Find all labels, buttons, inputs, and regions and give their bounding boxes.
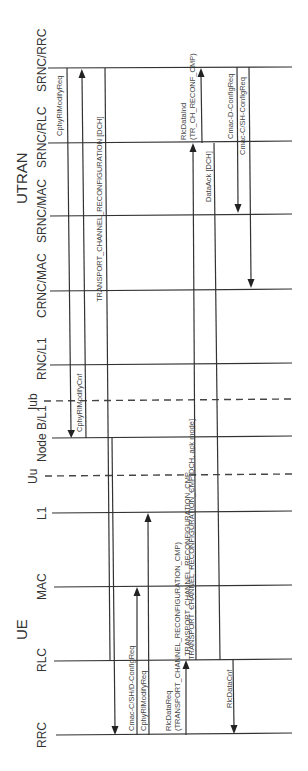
entity-label-ue-l1: L1: [35, 506, 49, 520]
lifeline-srnc-rlc: [48, 141, 292, 143]
entity-label-ue-mac: MAC: [35, 573, 49, 600]
lifeline-srnc-mac: [50, 214, 292, 216]
arrow-down-icon: [248, 279, 255, 288]
message-cmac-c-sh-config-req: Cmac-C/SH-ConfigReq: [238, 67, 255, 288]
sequence-diagram: UTRAN UE SRNC/RRC SRNC/RLC SRNC/MAC CRNC…: [0, 0, 308, 771]
svg-text:TRANSPORT_CHANNEL_RECONFIGURAT: TRANSPORT_CHANNEL_RECONFIGURATION [DCH]: [95, 116, 104, 302]
svg-text:CphyRlModifyCnf: CphyRlModifyCnf: [75, 373, 84, 432]
message-transport-channel-reconfiguration-cmp-dch-ack: TRANSPORT_CHANNEL_RECONFIGURATION_CMP[DC…: [187, 143, 197, 660]
svg-text:Cmac-D-ConfigReq: Cmac-D-ConfigReq: [226, 74, 235, 139]
lifeline-crnc-mac: [50, 289, 292, 291]
arrow-down-icon: [235, 204, 242, 213]
lifeline-ue-rrc: [56, 733, 292, 735]
message-cphy-modify-cnf: CphyRlModifyCnf: [75, 69, 86, 438]
entity-label-srnc-mac: SRNC/MAC: [35, 179, 49, 243]
group-label-utran: UTRAN: [13, 152, 30, 204]
arrow-up-icon: [198, 68, 205, 77]
entity-label-nodeb-l1: Node B/L1: [35, 405, 49, 462]
svg-text:(TRANSPORT_CHANNEL_RECONFIGURA: (TRANSPORT_CHANNEL_RECONFIGURATION_CMP): [173, 542, 182, 731]
entity-label-crnc-mac: CRNC/MAC: [35, 253, 49, 318]
entity-label-ue-rrc: RRC: [35, 722, 49, 748]
svg-text:Cmac-C/SH/D-ConfigReq: Cmac-C/SH/D-ConfigReq: [127, 646, 136, 731]
arrow-down-icon: [68, 430, 76, 438]
svg-text:DataAck [DCH]: DataAck [DCH]: [204, 151, 213, 202]
entity-label-uu: Uu: [26, 469, 40, 484]
svg-text:RlcDataCnf: RlcDataCnf: [225, 669, 234, 708]
svg-text:TRANSPORT_CHANNEL_RECONFIGURAT: TRANSPORT_CHANNEL_RECONFIGURATION_CMP[DC…: [187, 419, 196, 660]
arrow-up-icon: [145, 513, 152, 522]
lifeline-nodeb-l1: [52, 436, 292, 438]
arrow-up-icon: [183, 660, 190, 669]
message-rlc-data-ind: RlcDataInd (TR_CH_RECONF_CMP): [179, 53, 205, 143]
arrow-down-icon: [112, 726, 119, 735]
entity-label-rnc-l1: RNC/L1: [35, 337, 49, 380]
entity-label-ue-rlc: RLC: [35, 648, 49, 672]
svg-text:(TR_CH_RECONF_CMP): (TR_CH_RECONF_CMP): [188, 53, 197, 140]
svg-text:CphyRlModifyReq: CphyRlModifyReq: [139, 671, 148, 731]
message-rlc-data-cnf: RlcDataCnf: [225, 660, 238, 734]
group-label-ue: UE: [13, 619, 30, 640]
arrow-down-icon: [231, 725, 238, 734]
lifeline-srnc-rrc: [48, 67, 292, 68]
message-data-ack-dch: DataAck [DCH]: [204, 143, 220, 660]
message-cphy-modify-req-utran: CphyRlModifyReq: [55, 68, 75, 438]
svg-text:Cmac-C/SH-ConfigReq: Cmac-C/SH-ConfigReq: [238, 77, 247, 155]
svg-text:CphyRlModifyReq: CphyRlModifyReq: [55, 76, 64, 136]
entity-label-srnc-rlc: SRNC/RLC: [35, 106, 49, 168]
lifeline-uu: [45, 474, 292, 476]
arrow-up-icon: [79, 69, 86, 78]
lifeline-rnc-l1: [50, 363, 292, 365]
arrow-up-icon: [190, 143, 197, 152]
arrow-up-icon: [134, 587, 141, 596]
lifeline-ue-l1: [52, 511, 292, 513]
entity-label-srnc-rrc: SRNC/RRC: [35, 28, 49, 92]
svg-text:RlcDataInd: RlcDataInd: [179, 103, 188, 140]
svg-text:RlcDataReq: RlcDataReq: [164, 691, 173, 731]
